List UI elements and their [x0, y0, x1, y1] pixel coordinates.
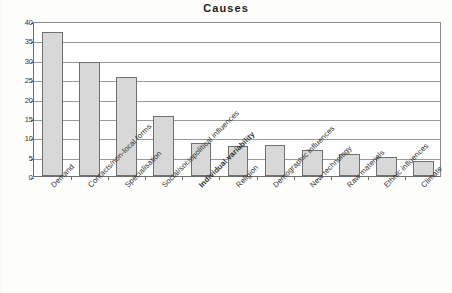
y-axis-tick-label: 40 — [11, 18, 33, 27]
bar-chart-figure: Causes 0510152025303540 DemandContacts/n… — [0, 0, 452, 293]
bar — [42, 32, 63, 176]
y-axis-tick-label: 20 — [11, 95, 33, 104]
y-axis-tick-label: 15 — [11, 114, 33, 123]
y-axis-tick-label: 5 — [11, 153, 33, 162]
y-axis-tick-label: 30 — [11, 56, 33, 65]
x-axis-category-labels: DemandContacts/non-local formsSpecialisa… — [0, 177, 452, 293]
chart-title: Causes — [0, 2, 452, 14]
y-axis-tick-label: 25 — [11, 76, 33, 85]
gridline — [34, 42, 440, 43]
y-axis-tick-label: 10 — [11, 134, 33, 143]
bar — [79, 62, 100, 176]
bar — [153, 116, 174, 176]
y-axis-tick-label: 35 — [11, 37, 33, 46]
